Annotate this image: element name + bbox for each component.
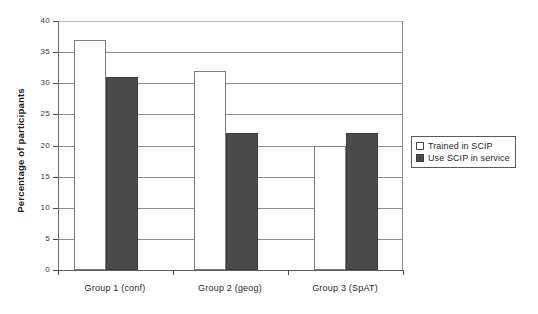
- filled-square-icon: [416, 154, 424, 162]
- hollow-square-icon: [416, 142, 424, 150]
- chart-figure: Percentage of participants 0510152025303…: [0, 0, 538, 314]
- y-axis-tick-label: 5: [24, 234, 50, 243]
- x-axis-tick: [403, 270, 404, 275]
- y-axis-tick-label-wrap: 10: [24, 203, 50, 213]
- y-axis-tick-label-wrap: 15: [24, 172, 50, 182]
- legend-item: Trained in SCIP: [416, 140, 510, 152]
- y-axis-tick-label: 40: [24, 16, 50, 25]
- legend-item-label: Trained in SCIP: [428, 141, 493, 151]
- bar-inservice-group1: [106, 77, 138, 270]
- y-axis-tick-label: 25: [24, 109, 50, 118]
- y-axis-tick-label: 35: [24, 47, 50, 56]
- y-axis-tick-label-wrap: 35: [24, 47, 50, 57]
- y-axis-tick-label-wrap: 40: [24, 16, 50, 26]
- x-axis-tick: [288, 270, 289, 275]
- bar-inservice-group3: [346, 133, 378, 270]
- y-axis-tick-label-wrap: 20: [24, 141, 50, 151]
- y-axis-tick-label: 10: [24, 203, 50, 212]
- x-axis-tick: [173, 270, 174, 275]
- y-axis-tick-label: 0: [24, 265, 50, 274]
- y-axis-tick-label-wrap: 30: [24, 78, 50, 88]
- gridline: [59, 21, 402, 22]
- y-axis-tick-label: 15: [24, 172, 50, 181]
- bar-inservice-group2: [226, 133, 258, 270]
- x-axis-category-label: Group 1 (conf): [50, 283, 180, 293]
- y-axis-tick-label-wrap: 0: [24, 265, 50, 275]
- y-axis-tick-label: 30: [24, 78, 50, 87]
- x-axis-category-label: Group 2 (geog): [165, 283, 295, 293]
- y-axis-tick-label: 20: [24, 141, 50, 150]
- y-axis-tick-label-wrap: 25: [24, 109, 50, 119]
- gridline: [59, 52, 402, 53]
- chart-legend: Trained in SCIP Use SCIP in service: [411, 136, 516, 168]
- y-axis-tick-label-wrap: 5: [24, 234, 50, 244]
- bar-trained-group2: [194, 71, 226, 270]
- x-axis-line: [58, 270, 404, 271]
- legend-item-label: Use SCIP in service: [428, 153, 510, 163]
- bar-trained-group1: [74, 40, 106, 270]
- x-axis-category-label: Group 3 (SpAT): [280, 283, 410, 293]
- x-axis-tick: [58, 270, 59, 275]
- plot-area: [58, 21, 403, 270]
- bar-trained-group3: [314, 146, 346, 271]
- legend-item: Use SCIP in service: [416, 152, 510, 164]
